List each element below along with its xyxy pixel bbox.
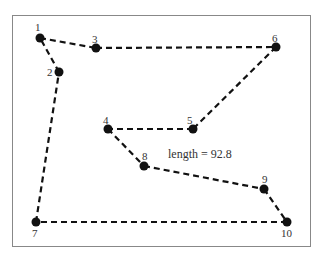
node-7 [32, 218, 41, 227]
node-label-2: 2 [47, 66, 53, 78]
node-label-4: 4 [103, 114, 109, 126]
node-label-9: 9 [262, 173, 268, 185]
node-label-3: 3 [92, 33, 98, 45]
tour-diagram: 1 2 3 4 5 6 7 8 9 10 length = 92.8 [0, 0, 323, 256]
diagram-frame [13, 16, 311, 247]
node-label-5: 5 [187, 114, 193, 126]
tour-length-annotation: length = 92.8 [168, 147, 232, 161]
node-label-1: 1 [35, 21, 41, 33]
node-9 [260, 185, 269, 194]
node-label-10: 10 [281, 227, 293, 239]
node-8 [140, 162, 149, 171]
node-label-8: 8 [142, 150, 148, 162]
node-label-7: 7 [32, 227, 38, 239]
node-1 [36, 34, 45, 43]
node-label-6: 6 [272, 32, 278, 44]
node-10 [283, 218, 292, 227]
node-2 [55, 68, 64, 77]
